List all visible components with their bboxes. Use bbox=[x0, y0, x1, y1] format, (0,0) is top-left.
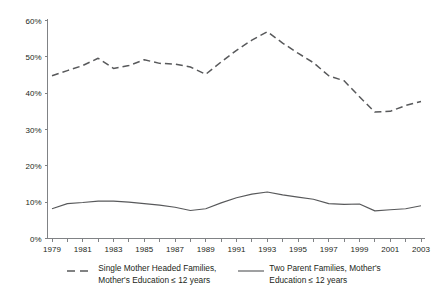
x-tick-label: 1981 bbox=[74, 245, 92, 254]
solid-line-swatch bbox=[238, 266, 264, 276]
x-tick-label: 1989 bbox=[197, 245, 215, 254]
y-tick-label: 50% bbox=[25, 53, 41, 62]
x-tick-label: 1993 bbox=[258, 245, 276, 254]
y-tick-label: 20% bbox=[25, 162, 41, 171]
legend-label-two-parent: Two Parent Families, Mother's Education … bbox=[269, 263, 380, 286]
x-tick-label: 1991 bbox=[228, 245, 246, 254]
axis-lines bbox=[48, 19, 426, 239]
y-axis-tick-labels: 0%10%20%30%40%50%60% bbox=[25, 17, 41, 244]
x-tick-label: 1987 bbox=[166, 245, 184, 254]
legend-item-single-mother: Single Mother Headed Families, Mother's … bbox=[67, 263, 216, 286]
line-chart: 0%10%20%30%40%50%60% 1979198119831985198… bbox=[0, 0, 442, 297]
x-axis-tick-labels: 1979198119831985198719891991199319951997… bbox=[43, 245, 430, 254]
axis-tick-marks bbox=[45, 21, 422, 242]
series-line-single-mother bbox=[52, 32, 421, 112]
x-tick-label: 1997 bbox=[320, 245, 338, 254]
chart-legend: Single Mother Headed Families, Mother's … bbox=[0, 263, 442, 297]
y-tick-label: 10% bbox=[25, 198, 41, 207]
legend-label-single-mother: Single Mother Headed Families, Mother's … bbox=[98, 263, 216, 286]
x-tick-label: 1979 bbox=[43, 245, 61, 254]
x-tick-label: 1995 bbox=[289, 245, 307, 254]
dashed-line-swatch bbox=[67, 266, 93, 276]
x-tick-label: 2003 bbox=[412, 245, 430, 254]
series-line-two-parent bbox=[52, 192, 421, 211]
y-tick-label: 0% bbox=[30, 235, 42, 244]
x-tick-label: 1985 bbox=[135, 245, 153, 254]
y-tick-label: 60% bbox=[25, 17, 41, 26]
chart-plot-area: 0%10%20%30%40%50%60% 1979198119831985198… bbox=[0, 0, 442, 265]
x-tick-label: 2001 bbox=[381, 245, 399, 254]
x-tick-label: 1983 bbox=[105, 245, 123, 254]
legend-item-two-parent: Two Parent Families, Mother's Education … bbox=[238, 263, 380, 286]
y-tick-label: 40% bbox=[25, 89, 41, 98]
x-tick-label: 1999 bbox=[351, 245, 369, 254]
y-tick-label: 30% bbox=[25, 126, 41, 135]
